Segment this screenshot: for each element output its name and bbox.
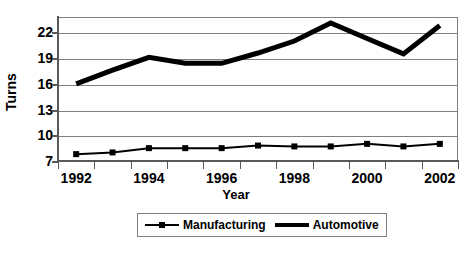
y-axis-tick-label: 19 [20, 51, 53, 65]
x-axis-tick-label: 2000 [352, 171, 383, 185]
series-layer [58, 17, 458, 161]
y-axis-tick-mark [52, 58, 58, 60]
x-axis-tick-mark [240, 162, 241, 169]
data-point-marker [400, 143, 406, 149]
data-point-marker [255, 143, 261, 149]
y-axis-tick-mark [52, 32, 58, 34]
legend-key-line-with-square-marker-icon [145, 219, 179, 231]
chart-legend: Manufacturing Automotive [137, 213, 387, 237]
x-axis-title: Year [0, 187, 472, 202]
x-axis-tick-mark [385, 162, 386, 169]
x-axis-tick-label: 1994 [133, 171, 164, 185]
y-axis-tick-mark [52, 110, 58, 112]
data-point-marker [291, 143, 297, 149]
data-point-marker [328, 143, 334, 149]
x-axis-tick-mark [313, 162, 314, 169]
x-axis-tick-mark [58, 162, 59, 169]
y-axis-tick-label: 13 [20, 103, 53, 117]
data-point-marker [182, 145, 188, 151]
x-axis-tick-label: 1998 [279, 171, 310, 185]
y-axis-title: Turns [0, 62, 22, 122]
x-axis-tick-mark [94, 162, 95, 169]
x-axis-tick-label: 1992 [61, 171, 92, 185]
legend-item-manufacturing[interactable]: Manufacturing [145, 219, 266, 231]
legend-label-automotive: Automotive [313, 219, 379, 231]
x-axis-tick-mark [422, 162, 423, 169]
data-point-marker [437, 141, 443, 147]
line-chart: Turns 71013161922 1992199419961998200020… [0, 0, 472, 253]
y-axis-tick-label: 22 [20, 25, 53, 39]
y-axis-tick-label: 10 [20, 128, 53, 142]
data-point-marker [73, 151, 79, 157]
x-axis-tick-mark [458, 162, 459, 169]
legend-item-automotive[interactable]: Automotive [275, 219, 379, 231]
y-axis-tick-mark [52, 84, 58, 86]
x-axis-tick-mark [349, 162, 350, 169]
y-axis-tick-label: 7 [20, 154, 53, 168]
y-axis-tick-mark [52, 135, 58, 137]
x-axis-tick-mark [203, 162, 204, 169]
x-axis-tick-mark [276, 162, 277, 169]
x-axis-tick-mark [131, 162, 132, 169]
x-axis-tick-label: 1996 [206, 171, 237, 185]
x-axis-tick-label: 2002 [424, 171, 455, 185]
data-point-marker [219, 145, 225, 151]
y-axis-tick-label: 16 [20, 77, 53, 91]
series-line-automotive [76, 23, 440, 84]
legend-key-thick-line-icon [275, 219, 309, 231]
legend-label-manufacturing: Manufacturing [183, 219, 266, 231]
data-point-marker [146, 145, 152, 151]
data-point-marker [364, 141, 370, 147]
x-axis-tick-mark [167, 162, 168, 169]
data-point-marker [110, 149, 116, 155]
y-axis-tick-labels: 71013161922 [20, 17, 53, 161]
